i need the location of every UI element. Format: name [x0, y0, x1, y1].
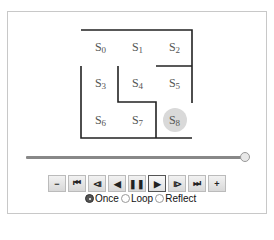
play-reverse-button[interactable]: ◀ [108, 175, 126, 192]
state-label-s5: S5 [156, 76, 193, 91]
faster-icon: + [214, 179, 219, 189]
first-icon: ⏮ [73, 178, 81, 189]
next-icon: ⧐ [173, 179, 182, 189]
radio-button[interactable] [155, 194, 164, 203]
reverse-icon: ◀ [114, 179, 121, 189]
last-frame-button[interactable]: ⏭ [188, 175, 206, 192]
first-frame-button[interactable]: ⏮ [68, 175, 86, 192]
state-label-s0: S0 [82, 40, 119, 55]
next-frame-button[interactable]: ⧐ [168, 175, 186, 192]
pause-icon: ❚❚ [129, 179, 145, 189]
loop-mode-reflect[interactable]: Reflect [155, 193, 196, 204]
loop-mode-group: OnceLoopReflect [85, 193, 198, 204]
radio-button[interactable] [85, 194, 94, 203]
state-label-s6: S6 [82, 113, 119, 128]
prev-icon: ⧏ [93, 179, 102, 189]
faster-button[interactable]: + [208, 175, 226, 192]
state-label-s7: S7 [119, 113, 156, 128]
frame-slider-track[interactable] [26, 156, 246, 159]
loop-mode-loop[interactable]: Loop [121, 193, 153, 204]
state-label-s2: S2 [156, 40, 193, 55]
slower-button[interactable]: − [48, 175, 66, 192]
last-icon: ⏭ [193, 178, 201, 189]
state-label-s4: S4 [119, 76, 156, 91]
pause-button[interactable]: ❚❚ [128, 175, 146, 192]
state-label-s3: S3 [82, 76, 119, 91]
state-label-s8: S8 [156, 113, 193, 128]
radio-button[interactable] [121, 194, 130, 203]
frame-slider-thumb[interactable] [240, 152, 250, 162]
state-label-s1: S1 [119, 40, 156, 55]
play-icon: ▶ [154, 179, 161, 189]
loop-mode-once[interactable]: Once [85, 193, 119, 204]
playback-controls: −⏮⧏◀❚❚▶⧐⏭+ [48, 175, 226, 193]
previous-frame-button[interactable]: ⧏ [88, 175, 106, 192]
play-button[interactable]: ▶ [148, 175, 166, 192]
slower-icon: − [54, 179, 59, 189]
